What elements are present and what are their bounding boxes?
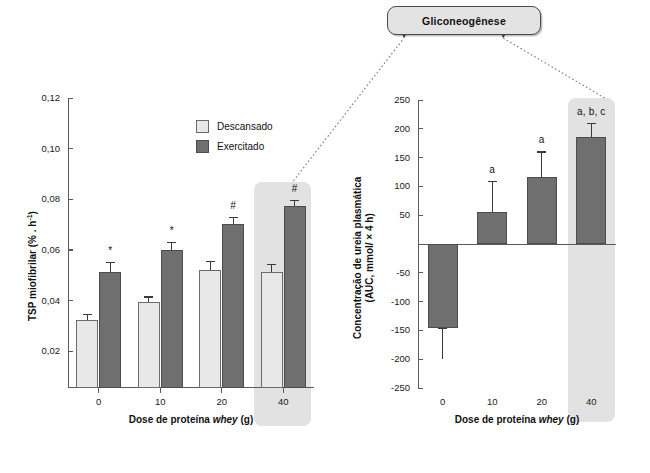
x-tick-mark — [98, 388, 99, 393]
error-bar-exercitado-dose-10-cap — [167, 242, 176, 243]
error-bar-descansado-dose-20-cap — [206, 261, 215, 262]
error-bar-ureia-dose-40-cap — [587, 123, 596, 124]
y-tick-mark — [68, 249, 73, 250]
x-tick-label: 40 — [586, 396, 597, 407]
callout-gliconeogenese: Gliconeogênese — [387, 6, 541, 35]
y-tick-mark — [68, 199, 73, 200]
y-tick-mark — [418, 100, 423, 101]
bar-exercitado-dose-10 — [161, 250, 183, 388]
bar-ureia-dose-0 — [428, 244, 458, 328]
significance-marker-1: * — [170, 225, 174, 236]
x-tick-label: 10 — [487, 396, 498, 407]
x-axis-title-left-text-pre: Dose de proteína — [129, 414, 213, 425]
y-tick-label: -250 — [391, 382, 410, 393]
significance-marker-3: a, b, c — [577, 106, 606, 117]
significance-marker-2: a — [539, 134, 545, 145]
bar-exercitado-dose-20 — [222, 224, 244, 388]
error-bar-ureia-dose-10-stem — [492, 181, 493, 213]
x-axis-title-right-text-emph: whey — [539, 414, 564, 425]
significance-marker-3: # — [292, 183, 298, 194]
y-tick-mark — [418, 301, 423, 302]
x-axis-title-left: Dose de proteína whey (g) — [68, 414, 314, 425]
bar-exercitado-dose-40 — [284, 206, 306, 388]
error-bar-exercitado-dose-0-stem — [110, 262, 111, 272]
y-tick-mark — [418, 359, 423, 360]
y-axis-title-right-text: Concentração de ureia plasmática(AUC, mm… — [352, 177, 376, 339]
y-tick-label: 0,02 — [42, 345, 61, 356]
significance-marker-1: a — [489, 164, 495, 175]
y-tick-mark — [418, 388, 423, 389]
error-bar-ureia-dose-10-cap — [488, 181, 497, 182]
y-tick-label: 50 — [399, 209, 410, 220]
y-tick-label: 0,12 — [42, 92, 61, 103]
x-axis-title-right-text-post: (g) — [564, 414, 580, 425]
bar-ureia-dose-10 — [477, 212, 507, 244]
x-tick-mark — [221, 388, 222, 393]
legend-label-descansado: Descansado — [217, 121, 273, 132]
y-axis-title-left-text: TSP miofibrilar (% . h-1) — [27, 211, 38, 321]
legend-swatch-exercitado — [196, 140, 209, 153]
y-tick-label: -150 — [391, 324, 410, 335]
y-tick-label: 0,06 — [42, 244, 61, 255]
significance-marker-0: * — [108, 245, 112, 256]
bar-ureia-dose-40 — [576, 137, 606, 244]
y-tick-label: -100 — [391, 296, 410, 307]
error-bar-ureia-dose-40-stem — [591, 123, 592, 137]
error-bar-descansado-dose-40-cap — [267, 264, 276, 265]
x-axis-title-right-text-pre: Dose de proteína — [455, 414, 539, 425]
error-bar-exercitado-dose-40-cap — [290, 200, 299, 201]
y-tick-mark — [418, 272, 423, 273]
y-tick-label: 150 — [394, 152, 410, 163]
y-tick-label: 100 — [394, 180, 410, 191]
bar-descansado-dose-0 — [76, 320, 98, 388]
y-axis-title-right: Concentração de ureia plasmática(AUC, mm… — [352, 177, 376, 339]
bar-descansado-dose-10 — [138, 302, 160, 388]
x-axis-title-left-text-post: (g) — [238, 414, 254, 425]
y-tick-label: 0,10 — [42, 143, 61, 154]
y-tick-label: 0,08 — [42, 193, 61, 204]
error-bar-ureia-dose-0-stem — [442, 328, 443, 359]
x-tick-label: 0 — [96, 396, 101, 407]
x-tick-label: 20 — [536, 396, 547, 407]
figure-container: Gliconeogênese TSP miofibrilar (% . h-1)… — [0, 0, 650, 473]
x-tick-label: 40 — [278, 396, 289, 407]
x-tick-label: 0 — [440, 396, 445, 407]
error-bar-ureia-dose-0-cap — [438, 328, 447, 329]
chart-panel-tsp-myofibrillar: TSP miofibrilar (% . h-1) 0,020,040,060,… — [0, 78, 330, 473]
x-axis-title-left-text-emph: whey — [213, 414, 238, 425]
y-tick-mark — [418, 157, 423, 158]
legend-swatch-descansado — [196, 120, 209, 133]
y-axis-title-left: TSP miofibrilar (% . h-1) — [26, 211, 38, 321]
y-tick-mark — [418, 330, 423, 331]
y-tick-label: -200 — [391, 353, 410, 364]
plot-area-left: 0,020,040,060,080,100,120*10*20#40# — [68, 98, 314, 388]
bar-descansado-dose-40 — [261, 272, 283, 388]
x-tick-label: 10 — [155, 396, 166, 407]
significance-marker-2: # — [230, 200, 236, 211]
error-bar-descansado-dose-10-cap — [144, 296, 153, 297]
legend-label-exercitado: Exercitado — [217, 141, 264, 152]
y-tick-label: 200 — [394, 123, 410, 134]
y-axis-line-left — [68, 98, 69, 388]
error-bar-descansado-dose-20-stem — [210, 261, 211, 270]
bar-exercitado-dose-0 — [99, 272, 121, 388]
x-tick-mark — [160, 388, 161, 393]
legend-item-exercitado: Exercitado — [196, 140, 273, 153]
error-bar-ureia-dose-20-cap — [537, 151, 546, 152]
error-bar-descansado-dose-0-cap — [83, 314, 92, 315]
x-axis-title-right: Dose de proteína whey (g) — [418, 414, 616, 425]
y-tick-label: 0,04 — [42, 295, 61, 306]
error-bar-exercitado-dose-20-cap — [229, 217, 238, 218]
x-tick-label: 20 — [216, 396, 227, 407]
callout-label: Gliconeogênese — [422, 15, 506, 27]
chart-legend: Descansado Exercitado — [196, 120, 273, 160]
bar-descansado-dose-20 — [199, 270, 221, 388]
y-tick-label: -50 — [396, 267, 410, 278]
y-tick-label: 250 — [394, 94, 410, 105]
error-bar-ureia-dose-20-stem — [541, 151, 542, 176]
y-tick-mark — [68, 351, 73, 352]
y-tick-mark — [418, 186, 423, 187]
legend-item-descansado: Descansado — [196, 120, 273, 133]
y-tick-mark — [68, 148, 73, 149]
bar-ureia-dose-20 — [527, 177, 557, 244]
